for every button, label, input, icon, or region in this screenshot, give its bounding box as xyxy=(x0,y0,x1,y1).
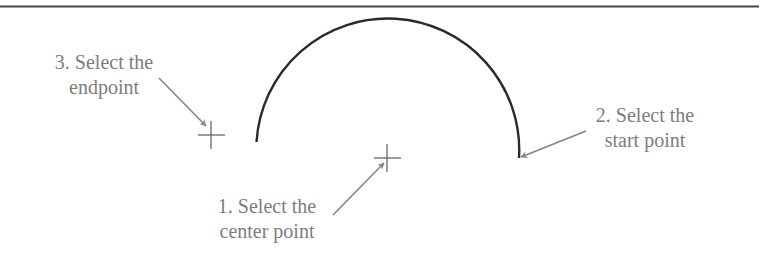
step-1-line2: center point xyxy=(202,219,332,244)
step-3-line2: endpoint xyxy=(40,75,168,100)
step-1-line1: 1. Select the xyxy=(202,194,332,219)
step-3-line1: 3. Select the xyxy=(40,50,168,75)
arrow-start-icon xyxy=(521,131,586,157)
arrow-center-icon xyxy=(333,163,384,215)
arc xyxy=(257,19,520,158)
step-2-line1: 2. Select the xyxy=(580,103,710,128)
center-crosshair-icon xyxy=(374,144,401,172)
endpoint-crosshair-icon xyxy=(198,121,225,149)
step-2-line2: start point xyxy=(580,128,710,153)
step-2-label: 2. Select the start point xyxy=(580,103,710,153)
step-3-label: 3. Select the endpoint xyxy=(40,50,168,100)
step-1-label: 1. Select the center point xyxy=(202,194,332,244)
